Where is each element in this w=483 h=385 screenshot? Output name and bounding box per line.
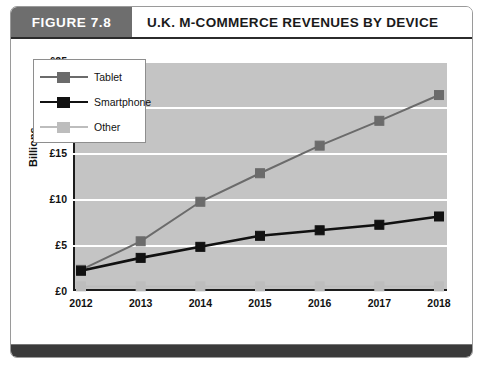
y-tick-label: £10	[10, 193, 67, 205]
data-point-other-2017	[375, 282, 384, 291]
chart-legend: Tablet Smartphone Other	[33, 59, 146, 143]
y-tick-label: £5	[10, 239, 67, 251]
y-tick-label: £0	[10, 285, 67, 297]
data-point-smartphone-2018	[435, 212, 444, 221]
data-point-smartphone-2013	[136, 253, 145, 262]
x-tick-label: 2013	[116, 297, 166, 309]
data-point-smartphone-2017	[375, 220, 384, 229]
legend-item-other: Other	[40, 118, 120, 136]
x-tick-label: 2017	[354, 297, 404, 309]
figure-footer-bar	[11, 344, 472, 357]
legend-marker	[57, 122, 70, 133]
data-point-smartphone-2015	[256, 231, 265, 240]
figure-title: U.K. M-COMMERCE REVENUES BY DEVICE	[147, 7, 438, 37]
legend-marker	[57, 72, 70, 83]
data-point-smartphone-2016	[315, 226, 324, 235]
data-point-other-2014	[196, 282, 205, 291]
data-point-tablet-2015	[256, 169, 265, 178]
data-point-other-2012	[77, 282, 86, 291]
data-point-tablet-2018	[435, 91, 444, 100]
legend-label-tablet: Tablet	[94, 71, 122, 83]
x-tick-label: 2014	[175, 297, 225, 309]
data-point-other-2016	[315, 282, 324, 291]
chart-region: Billions £0£5£10£15£20£25 20122013201420…	[11, 39, 472, 327]
legend-swatch-tablet	[40, 70, 88, 84]
x-tick-label: 2018	[414, 297, 464, 309]
figure-number-badge: FIGURE 7.8	[11, 7, 132, 37]
data-point-tablet-2014	[196, 197, 205, 206]
figure-card: FIGURE 7.8 U.K. M-COMMERCE REVENUES BY D…	[10, 6, 473, 358]
data-point-smartphone-2012	[77, 266, 86, 275]
legend-item-tablet: Tablet	[40, 68, 122, 86]
data-point-tablet-2017	[375, 116, 384, 125]
data-point-other-2013	[136, 282, 145, 291]
legend-label-smartphone: Smartphone	[94, 96, 151, 108]
figure-header: FIGURE 7.8 U.K. M-COMMERCE REVENUES BY D…	[11, 7, 472, 39]
x-tick-label: 2012	[56, 297, 106, 309]
x-tick-label: 2016	[295, 297, 345, 309]
legend-item-smartphone: Smartphone	[40, 93, 151, 111]
data-point-tablet-2013	[136, 237, 145, 246]
legend-marker	[57, 97, 70, 108]
x-tick-label: 2015	[235, 297, 285, 309]
data-point-tablet-2016	[315, 141, 324, 150]
y-tick-label: £15	[10, 147, 67, 159]
legend-swatch-smartphone	[40, 95, 88, 109]
legend-swatch-other	[40, 120, 88, 134]
data-point-smartphone-2014	[196, 242, 205, 251]
data-point-other-2018	[435, 282, 444, 291]
legend-label-other: Other	[94, 121, 120, 133]
data-point-other-2015	[256, 282, 265, 291]
